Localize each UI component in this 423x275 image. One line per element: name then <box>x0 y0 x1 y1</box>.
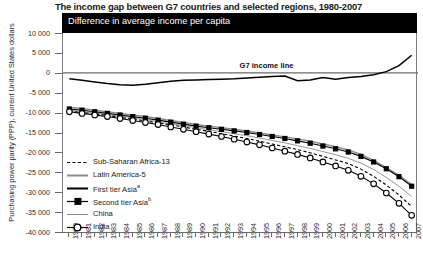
x-axis-baseline <box>62 232 417 233</box>
legend-label: Sub-Saharan Africa-13 <box>93 157 170 166</box>
x-tick-label: 1995 <box>262 223 271 239</box>
marker-india <box>244 139 250 145</box>
marker-india <box>384 190 390 196</box>
marker-india <box>333 163 339 169</box>
marker-second-tier-asia <box>181 122 186 127</box>
x-tick-label: 1983 <box>109 223 118 239</box>
y-tick-mark <box>55 192 62 193</box>
marker-india <box>307 155 313 161</box>
marker-second-tier-asia <box>333 146 338 151</box>
x-tick-label: 2003 <box>363 223 372 239</box>
y-tick-label: 0 <box>6 68 50 77</box>
marker-india <box>130 118 136 124</box>
marker-second-tier-asia <box>371 159 376 164</box>
marker-india <box>117 116 123 122</box>
x-tick-label: 1990 <box>198 223 207 239</box>
y-tick-mark <box>55 152 62 153</box>
marker-second-tier-asia <box>257 132 262 137</box>
y-tick-label: -40 000 <box>6 228 50 237</box>
legend-marker-dashed-black <box>66 156 90 169</box>
marker-india <box>206 131 212 137</box>
y-tick-label: -20 000 <box>6 148 50 157</box>
x-tick-label: 1988 <box>173 223 182 239</box>
legend-marker-solid-gray-thick <box>66 169 90 182</box>
marker-second-tier-asia <box>384 166 389 171</box>
y-tick-mark <box>55 53 62 54</box>
marker-india <box>257 142 263 148</box>
marker-second-tier-asia <box>206 125 211 130</box>
marker-second-tier-asia <box>232 128 237 133</box>
marker-india <box>396 201 402 207</box>
marker-india <box>155 122 161 128</box>
y-tick-mark <box>55 172 62 173</box>
subtitle-banner-label: Difference in average income per capita <box>68 16 230 26</box>
y-tick-label: -25 000 <box>6 168 50 177</box>
marker-second-tier-asia <box>270 134 275 139</box>
marker-india <box>168 124 174 130</box>
legend-label: India <box>93 222 109 231</box>
x-tick-label: 1986 <box>147 223 156 239</box>
marker-india <box>219 134 225 140</box>
marker-india <box>181 127 187 133</box>
y-tick-label: -35 000 <box>6 208 50 217</box>
marker-india <box>358 173 364 179</box>
x-tick-label: 1997 <box>287 223 296 239</box>
marker-india <box>269 145 275 151</box>
marker-second-tier-asia <box>282 136 287 141</box>
x-tick-label: 1989 <box>185 223 194 239</box>
marker-india <box>79 111 85 117</box>
marker-second-tier-asia <box>194 124 199 129</box>
subtitle-banner: Difference in average income per capita <box>62 13 417 33</box>
x-tick-label: 2001 <box>338 223 347 239</box>
marker-india <box>67 109 73 115</box>
y-tick-mark <box>55 93 62 94</box>
x-tick-label: 1999 <box>312 223 321 239</box>
legend-marker-solid-black-thick <box>66 182 90 195</box>
legend-label-superscript: a <box>137 183 140 189</box>
marker-second-tier-asia <box>409 184 414 189</box>
y-tick-label: -15 000 <box>6 128 50 137</box>
y-tick-mark <box>55 73 62 74</box>
y-tick-label: 10 000 <box>6 29 50 38</box>
marker-second-tier-asia <box>219 127 224 132</box>
x-tick-label: 2004 <box>376 223 385 239</box>
y-tick-label: -30 000 <box>6 188 50 197</box>
x-tick-label: 1992 <box>223 223 232 239</box>
y-tick-label: -10 000 <box>6 108 50 117</box>
marker-second-tier-asia <box>295 138 300 143</box>
x-tick-label: 1987 <box>160 223 169 239</box>
marker-india <box>105 114 111 120</box>
x-tick-label: 2002 <box>350 223 359 239</box>
g7-reference-annotation: G7 income line <box>240 61 294 70</box>
marker-india <box>371 181 377 187</box>
marker-second-tier-asia <box>346 149 351 154</box>
y-tick-mark <box>55 33 62 34</box>
marker-india <box>231 136 237 142</box>
marker-second-tier-asia <box>358 154 363 159</box>
legend-label-superscript: b <box>148 196 151 202</box>
legend-marker-solid-gray-thin <box>66 208 90 221</box>
chart-title: The income gap between G7 countries and … <box>0 0 417 13</box>
x-tick-label: 2000 <box>325 223 334 239</box>
y-tick-mark <box>55 113 62 114</box>
marker-second-tier-asia <box>396 174 401 179</box>
x-tick-label: 1993 <box>236 223 245 239</box>
x-tick-label: 1996 <box>274 223 283 239</box>
x-tick-label: 1985 <box>135 223 144 239</box>
legend-label: Second tier Asiab <box>93 196 151 207</box>
x-tick-label: 1994 <box>249 223 258 239</box>
x-tick-label: 1998 <box>300 223 309 239</box>
legend-label: Latin America-5 <box>93 170 146 179</box>
y-tick-label: 5 000 <box>6 48 50 57</box>
marker-india <box>193 129 199 135</box>
y-tick-mark <box>55 212 62 213</box>
x-tick-label: 2005 <box>388 223 397 239</box>
marker-second-tier-asia <box>320 143 325 148</box>
marker-india <box>92 112 98 118</box>
legend-marker-solid-black-circle <box>66 221 90 234</box>
legend-label: First tier Asiaa <box>93 183 140 194</box>
x-tick-label: 1984 <box>122 223 131 239</box>
y-tick-mark <box>55 232 62 233</box>
marker-india <box>295 152 301 158</box>
